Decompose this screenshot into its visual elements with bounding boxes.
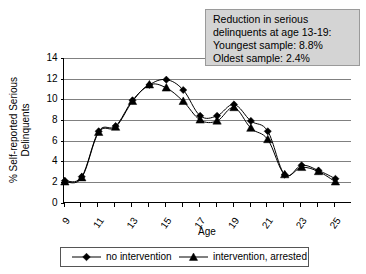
y-tick-label: 0	[52, 197, 58, 208]
delinquency-line-chart: 02468101214 91113151719212325 Age % Self…	[0, 0, 366, 274]
data-point-marker	[264, 128, 271, 135]
series-no-intervention	[61, 76, 339, 184]
y-tick-label: 10	[46, 93, 58, 104]
data-series-group	[61, 76, 340, 185]
annotation-box: Reduction in serious delinquents at age …	[206, 10, 360, 66]
series-intervention-arrested	[61, 80, 340, 185]
y-tick-label: 12	[46, 73, 58, 84]
x-tick-label: 25	[327, 215, 343, 231]
annotation-line-4: Oldest sample: 2.4%	[213, 52, 310, 64]
data-point-marker	[162, 84, 170, 92]
y-tick-labels: 02468101214	[46, 52, 58, 208]
y-tick-label: 6	[52, 135, 58, 146]
legend-label-no-intervention: no intervention	[106, 251, 172, 262]
x-tick-label: 11	[91, 215, 106, 230]
y-tick-label: 8	[52, 114, 58, 125]
annotation-line-1: Reduction in serious	[213, 13, 308, 25]
y-tick-label: 14	[46, 52, 58, 63]
x-tick-label: 21	[260, 215, 276, 231]
series-line	[65, 79, 336, 181]
annotation-line-3: Youngest sample: 8.8%	[213, 39, 323, 51]
series-line	[65, 84, 336, 183]
x-axis-title: Age	[198, 226, 216, 237]
x-tick-label: 23	[294, 215, 310, 231]
x-tick-label: 9	[60, 215, 72, 226]
x-tick-label: 13	[124, 215, 140, 231]
legend: no intervention intervention, arrested	[61, 248, 309, 267]
gridlines-group	[64, 59, 352, 183]
y-tick-label: 2	[52, 176, 58, 187]
legend-label-intervention-arrested: intervention, arrested	[213, 251, 307, 262]
chart-container: 02468101214 91113151719212325 Age % Self…	[0, 0, 366, 274]
x-tick-label: 19	[226, 215, 242, 231]
annotation-line-2: delinquents at age 13-19:	[213, 26, 332, 38]
y-axis-title-line2: Delinquents	[20, 104, 31, 157]
x-tick-marks	[65, 203, 335, 207]
y-tick-label: 4	[52, 155, 58, 166]
x-tick-label: 15	[158, 215, 174, 231]
y-axis-title: % Self-reported Serious Delinquents	[8, 77, 31, 183]
y-axis-title-line1: % Self-reported Serious	[8, 77, 19, 183]
data-point-marker	[163, 76, 170, 83]
